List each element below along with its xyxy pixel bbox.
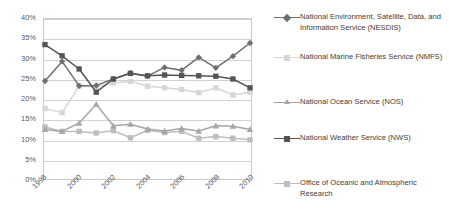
legend-item-nesdis[interactable]: National Environment, Satellite, Data, a… — [274, 12, 448, 33]
series-nos — [42, 101, 254, 134]
series-lines — [44, 19, 251, 179]
legend-item-label: Office of Oceanic and Atmospheric Resear… — [300, 178, 448, 199]
y-axis-tick-label: 30% — [2, 55, 36, 63]
legend-item-nmfs[interactable]: National Marine Fisheries Service (NMFS) — [274, 52, 442, 63]
y-axis-tick-label: 35% — [2, 34, 36, 42]
legend-item-oar[interactable]: Office of Oceanic and Atmospheric Resear… — [274, 178, 448, 199]
chart-panel: 0%5%10%15%20%25%30%35%40% 19982000200220… — [0, 0, 268, 221]
legend-marker-square-icon — [274, 179, 300, 188]
legend-item-label: National Environment, Satellite, Data, a… — [300, 12, 448, 33]
chart-legend: National Environment, Satellite, Data, a… — [268, 0, 449, 221]
y-axis-tick-label: 5% — [2, 156, 36, 164]
legend-item-nws[interactable]: National Weather Service (NWS) — [274, 133, 411, 144]
y-axis-tick-label: 25% — [2, 75, 36, 83]
chart-screenshot: 0%5%10%15%20%25%30%35%40% 19982000200220… — [0, 0, 449, 221]
y-axis-tick-label: 15% — [2, 115, 36, 123]
legend-item-nos[interactable]: National Ocean Service (NOS) — [274, 97, 403, 108]
series-nmfs — [42, 79, 252, 116]
legend-marker-square-icon — [274, 53, 300, 62]
legend-item-label: National Marine Fisheries Service (NMFS) — [300, 52, 442, 63]
y-axis-tick-label: 20% — [2, 95, 36, 103]
legend-item-label: National Ocean Service (NOS) — [300, 97, 403, 108]
y-axis-tick-label: 40% — [2, 14, 36, 22]
y-axis-tick-label: 10% — [2, 136, 36, 144]
legend-item-label: National Weather Service (NWS) — [300, 133, 411, 144]
plot-area — [43, 18, 252, 180]
legend-marker-square-icon — [274, 134, 300, 143]
legend-marker-diamond-icon — [274, 13, 300, 22]
legend-marker-triangle-icon — [274, 98, 300, 107]
